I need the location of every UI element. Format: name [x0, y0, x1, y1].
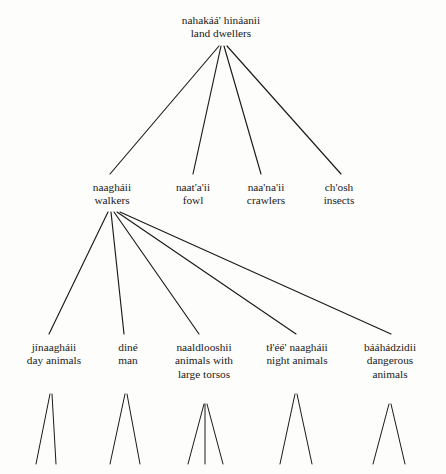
node-dangerous-animals: bááhádzidii dangerous animals: [349, 341, 431, 381]
node-day-animals: jínaagháii day animals: [27, 341, 81, 368]
leaf-stub-man-3: [127, 394, 140, 464]
node-fowl-term: naat'a'ii: [176, 181, 210, 194]
node-insects-term: ch'osh: [324, 181, 355, 194]
node-dangerous-animals-gloss: dangerous animals: [349, 354, 431, 381]
leaf-stub-day-animals-1: [52, 394, 56, 464]
edge-walkers-to-day-animals: [49, 212, 108, 334]
node-large-torsos-term: naaldlooshii: [163, 341, 245, 354]
node-walkers-gloss: walkers: [93, 194, 131, 207]
node-man: diné man: [118, 341, 137, 368]
leaf-stub-large-torsos-6: [207, 404, 223, 464]
node-day-animals-gloss: day animals: [27, 354, 81, 367]
node-large-torsos: naaldlooshii animals with large torsos: [163, 341, 245, 381]
node-walkers: naagháii walkers: [93, 181, 131, 208]
node-crawlers: naa'na'ii crawlers: [247, 181, 285, 208]
node-day-animals-term: jínaagháii: [27, 341, 81, 354]
node-man-term: diné: [118, 341, 137, 354]
leaf-stub-man-2: [110, 394, 125, 464]
leaf-stub-dangerous-animals-9: [373, 404, 389, 464]
node-insects-gloss: insects: [324, 194, 355, 207]
node-crawlers-gloss: crawlers: [247, 194, 285, 207]
edge-root-to-insects: [227, 46, 341, 174]
node-root-gloss: land dwellers: [182, 27, 260, 40]
edge-walkers-to-night-animals: [117, 212, 296, 334]
leaf-stub-night-animals-7: [280, 394, 295, 464]
edge-walkers-to-large-torsos: [114, 212, 199, 334]
node-night-animals-term: tł'éé' naagháii: [266, 341, 327, 354]
edge-walkers-to-dangerous-animals: [120, 212, 391, 334]
edge-root-to-crawlers: [224, 46, 261, 174]
node-large-torsos-gloss: animals with large torsos: [163, 354, 245, 381]
node-fowl: naat'a'ii fowl: [176, 181, 210, 208]
taxonomy-diagram: nahakáá' hináanii land dwellers naagháii…: [0, 0, 446, 474]
edge-root-to-walkers: [110, 46, 219, 174]
node-root: nahakáá' hináanii land dwellers: [182, 14, 260, 41]
node-fowl-gloss: fowl: [176, 194, 210, 207]
leaf-stub-day-animals-0: [36, 394, 50, 464]
edge-walkers-to-man: [111, 212, 124, 334]
edge-layer: [0, 0, 446, 474]
node-walkers-term: naagháii: [93, 181, 131, 194]
leaf-stub-night-animals-8: [297, 394, 312, 464]
leaf-stub-dangerous-animals-10: [391, 404, 405, 464]
leaf-stub-large-torsos-4: [188, 404, 204, 464]
node-crawlers-term: naa'na'ii: [247, 181, 285, 194]
node-root-term: nahakáá' hináanii: [182, 14, 260, 27]
node-dangerous-animals-term: bááhádzidii: [349, 341, 431, 354]
node-man-gloss: man: [118, 354, 137, 367]
node-night-animals-gloss: night animals: [266, 354, 327, 367]
edge-root-to-fowl: [193, 46, 221, 174]
node-night-animals: tł'éé' naagháii night animals: [266, 341, 327, 368]
node-insects: ch'osh insects: [324, 181, 355, 208]
